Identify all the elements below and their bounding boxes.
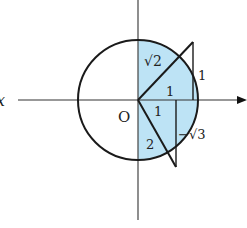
lower-horizontal-leg-label: 1 [154,104,162,119]
origin-label: O [118,108,130,126]
lower-hypotenuse-label: 2 [146,137,154,152]
x-axis-arrowhead-icon [237,96,247,104]
lower-vertical-leg-label: −√3 [178,127,205,142]
x-axis-label: x [0,91,5,110]
upper-hypotenuse-label: √2 [144,53,162,69]
upper-horizontal-leg-label: 1 [166,84,174,99]
upper-vertical-leg-label: 1 [198,68,206,83]
unit-circle-diagram: x O √2 1 1 1 2 −√3 [0,0,247,228]
